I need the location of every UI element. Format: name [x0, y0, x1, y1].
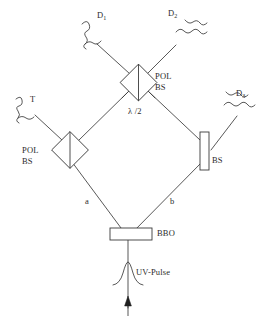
detector-d2-squiggle-icon — [176, 20, 207, 34]
pump-arrowhead-icon — [125, 296, 132, 306]
uv-pulse-label: UV-Pulse — [136, 267, 170, 277]
beam-path-d2-out — [147, 45, 176, 74]
beam-path-left-up — [78, 91, 129, 141]
beam-path-t-out — [35, 115, 62, 140]
beam-path-a — [72, 162, 124, 232]
bbo-crystal-label: BBO — [157, 228, 175, 238]
path-a-label: a — [85, 196, 89, 206]
pol-bs-top-label-line2: BS — [155, 82, 166, 92]
beam-path-d1-out — [97, 44, 130, 74]
beam-path-right-up — [148, 91, 200, 140]
pol-bs-left — [52, 132, 89, 169]
detector-d3-label: D3 — [236, 88, 246, 99]
beam-stub-top-right — [148, 91, 155, 98]
pol-bs-left-label-line2: BS — [22, 156, 33, 166]
bs-right-label: BS — [212, 155, 223, 165]
pol-bs-top-label-line1: POL — [155, 71, 172, 81]
path-b-label: b — [170, 196, 174, 206]
bs-right — [200, 132, 209, 170]
detector-d2-label: D2 — [168, 8, 178, 19]
optics-diagram: D1 D2 D3 T POL BS POL BS BS λ /2 BBO UV-… — [0, 0, 270, 321]
beam-stub-top-left — [122, 91, 129, 98]
bbo-crystal — [110, 228, 152, 240]
beam-path-d3-out — [211, 116, 237, 150]
detector-t-label: T — [30, 94, 35, 104]
half-wave-plate-label: λ /2 — [128, 106, 142, 116]
beam-path-b — [133, 161, 203, 232]
pol-bs-left-label-line1: POL — [22, 145, 39, 155]
optics-schematic-svg — [0, 0, 270, 321]
detector-d1-label: D1 — [97, 10, 107, 21]
